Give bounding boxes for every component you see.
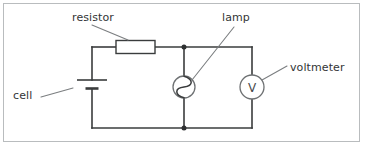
top-junction-dot — [182, 45, 187, 50]
leader-lamp — [192, 27, 234, 80]
bottom-junction-dot — [182, 126, 187, 131]
cell-symbol — [77, 80, 107, 89]
lamp-symbol — [173, 76, 195, 98]
leader-resistor — [92, 25, 128, 40]
label-cell: cell — [13, 90, 32, 102]
label-lamp: lamp — [222, 12, 250, 24]
circuit-diagram-figure: V resistor lamp voltmeter cell — [0, 0, 365, 147]
leader-voltmeter — [262, 66, 287, 80]
leader-cell — [41, 88, 73, 97]
circuit-wires — [92, 47, 252, 128]
voltmeter-symbol: V — [240, 75, 264, 99]
voltmeter-letter: V — [248, 81, 257, 95]
label-resistor: resistor — [72, 12, 114, 24]
resistor-symbol — [116, 41, 155, 54]
label-voltmeter: voltmeter — [290, 62, 345, 74]
